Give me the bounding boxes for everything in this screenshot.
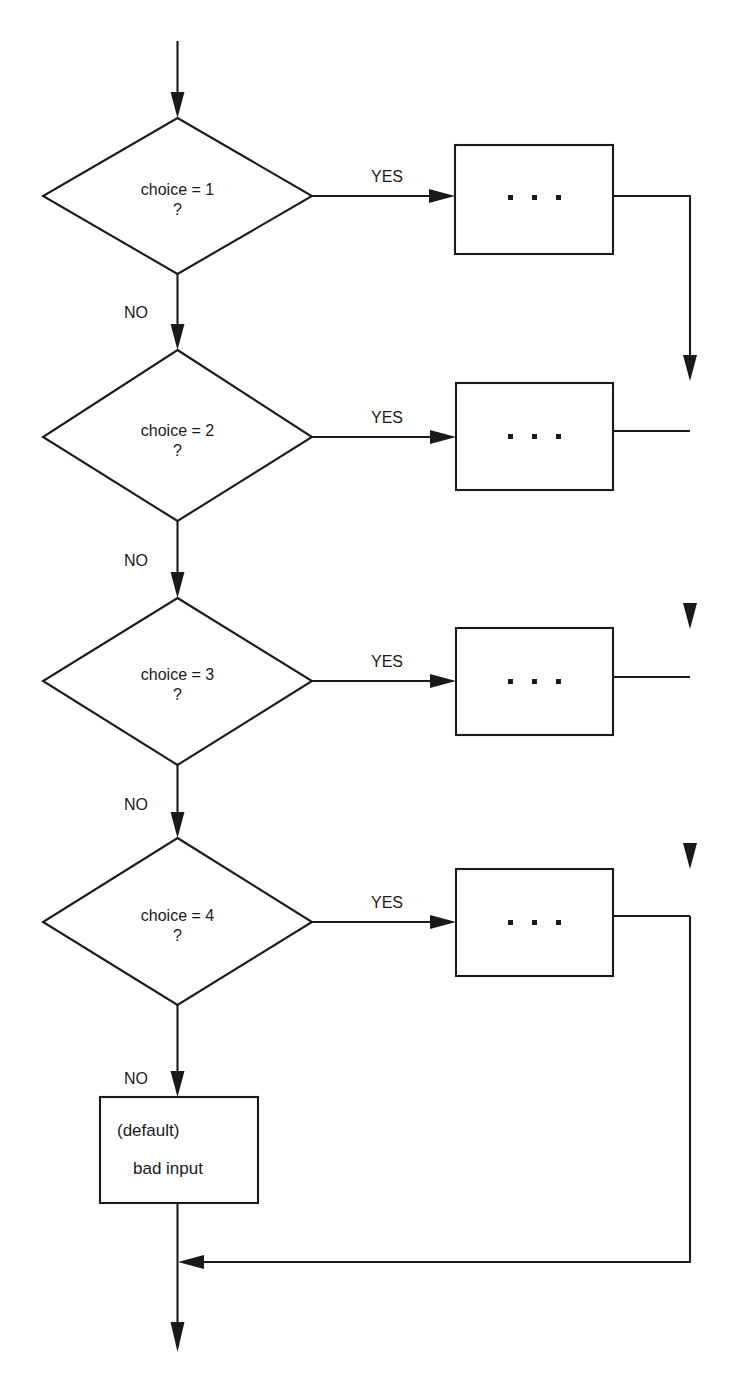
decision-3-line1: choice = 3 bbox=[141, 666, 214, 683]
decision-choice-2[interactable]: choice = 2 ? bbox=[43, 350, 312, 521]
three-dots-icon-3 bbox=[508, 679, 561, 684]
flowchart-canvas: choice = 1 ? YES NO bbox=[0, 0, 733, 1391]
exit-arrow bbox=[171, 1203, 185, 1352]
no-branch-4: NO bbox=[124, 1005, 185, 1097]
no-label-4: NO bbox=[124, 1070, 148, 1087]
default-box-line1: (default) bbox=[117, 1121, 179, 1140]
three-dots-icon-4 bbox=[508, 920, 561, 925]
process-box-1[interactable] bbox=[455, 145, 613, 254]
three-dots-icon-1 bbox=[508, 195, 561, 200]
yes-branch-4: YES bbox=[312, 894, 456, 929]
decision-3-line2: ? bbox=[173, 686, 182, 703]
process-box-3[interactable] bbox=[456, 628, 613, 735]
no-label-3: NO bbox=[124, 796, 148, 813]
yes-branch-1: YES bbox=[312, 168, 455, 203]
three-dots-icon-2 bbox=[508, 434, 561, 439]
yes-branch-3: YES bbox=[312, 653, 456, 688]
merge-connector-3 bbox=[613, 603, 697, 677]
yes-label-1: YES bbox=[371, 168, 403, 185]
entry-arrow bbox=[171, 41, 185, 118]
decision-choice-3[interactable]: choice = 3 ? bbox=[43, 598, 312, 765]
decision-choice-1[interactable]: choice = 1 ? bbox=[43, 118, 312, 274]
decision-2-line2: ? bbox=[173, 442, 182, 459]
process-box-2[interactable] bbox=[456, 383, 613, 490]
flowchart-svg: choice = 1 ? YES NO bbox=[0, 0, 733, 1391]
merge-connector-1 bbox=[613, 196, 697, 381]
default-box-line2: bad input bbox=[133, 1159, 203, 1178]
no-label-2: NO bbox=[124, 552, 148, 569]
no-branch-1: NO bbox=[124, 274, 185, 350]
decision-2-line1: choice = 2 bbox=[141, 422, 214, 439]
yes-branch-2: YES bbox=[312, 409, 456, 444]
process-box-4[interactable] bbox=[456, 869, 613, 976]
merge-connector-4 bbox=[613, 843, 697, 916]
no-branch-2: NO bbox=[124, 521, 185, 598]
yes-label-4: YES bbox=[371, 894, 403, 911]
decision-1-line1: choice = 1 bbox=[141, 181, 214, 198]
decision-4-line2: ? bbox=[173, 927, 182, 944]
decision-choice-4[interactable]: choice = 4 ? bbox=[43, 838, 312, 1005]
decision-4-line1: choice = 4 bbox=[141, 907, 214, 924]
yes-label-2: YES bbox=[371, 409, 403, 426]
no-label-1: NO bbox=[124, 304, 148, 321]
decision-1-line2: ? bbox=[173, 201, 182, 218]
default-box[interactable]: (default) bad input bbox=[100, 1097, 258, 1203]
no-branch-3: NO bbox=[124, 765, 185, 838]
yes-label-3: YES bbox=[371, 653, 403, 670]
